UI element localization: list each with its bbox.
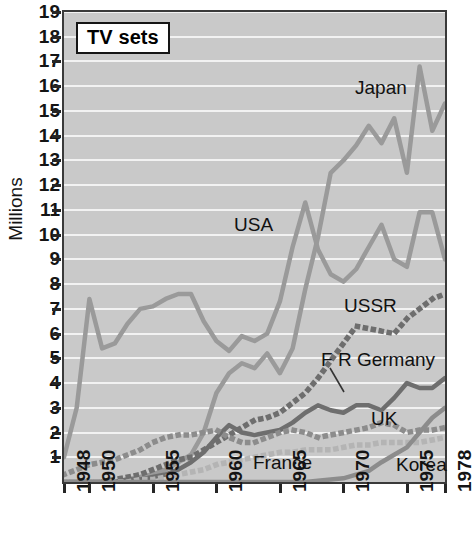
series-label-korea: Korea bbox=[396, 455, 447, 474]
chart-title: TV sets bbox=[76, 22, 170, 54]
x-tick-mark bbox=[279, 484, 282, 493]
y-tick-mark bbox=[52, 60, 61, 63]
fr-germany-leader-line bbox=[330, 368, 344, 392]
series-label-france: France bbox=[253, 453, 312, 472]
x-tick-label: 1960 bbox=[225, 450, 247, 492]
y-axis-tick-marks bbox=[0, 0, 62, 533]
x-tick-mark bbox=[406, 484, 409, 493]
x-tick-label: 1955 bbox=[162, 450, 184, 492]
x-tick-label: 1950 bbox=[98, 450, 120, 492]
y-tick-mark bbox=[52, 333, 61, 336]
x-tick-label: 1970 bbox=[352, 450, 374, 492]
y-tick-mark bbox=[52, 234, 61, 237]
x-tick-mark bbox=[88, 484, 91, 493]
y-tick-mark bbox=[52, 283, 61, 286]
y-tick-mark bbox=[52, 357, 61, 360]
series-label-ussr: USSR bbox=[344, 296, 397, 315]
y-tick-mark bbox=[52, 308, 61, 311]
x-tick-mark bbox=[444, 484, 447, 493]
series-label-usa: USA bbox=[234, 215, 273, 234]
y-tick-mark bbox=[52, 110, 61, 113]
x-tick-mark bbox=[152, 484, 155, 493]
x-tick-label: 1948 bbox=[73, 450, 95, 492]
y-tick-mark bbox=[52, 209, 61, 212]
y-tick-mark bbox=[52, 159, 61, 162]
series-label-uk: UK bbox=[371, 409, 397, 428]
y-tick-mark bbox=[52, 135, 61, 138]
y-tick-mark bbox=[52, 456, 61, 459]
y-tick-mark bbox=[52, 382, 61, 385]
x-tick-label: 1978 bbox=[454, 450, 476, 492]
x-tick-mark bbox=[342, 484, 345, 493]
x-tick-mark bbox=[215, 484, 218, 493]
y-tick-mark bbox=[52, 184, 61, 187]
y-tick-mark bbox=[52, 11, 61, 14]
y-tick-mark bbox=[52, 85, 61, 88]
y-tick-mark bbox=[52, 258, 61, 261]
y-tick-mark bbox=[52, 432, 61, 435]
y-tick-mark bbox=[52, 36, 61, 39]
series-label-japan: Japan bbox=[355, 78, 407, 97]
x-tick-mark bbox=[63, 484, 66, 493]
y-tick-mark bbox=[52, 407, 61, 410]
series-label-fr-germany: F R Germany bbox=[321, 350, 435, 369]
